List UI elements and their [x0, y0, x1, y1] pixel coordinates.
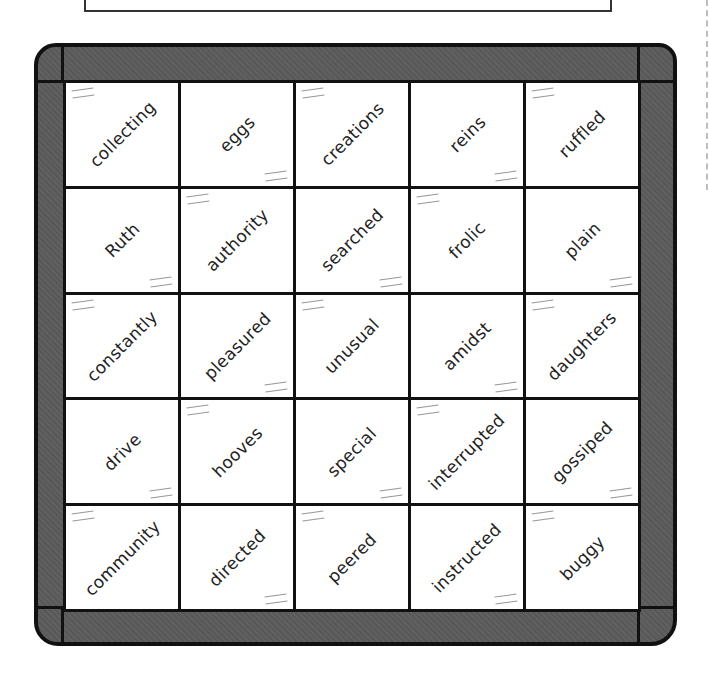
word: authority: [202, 205, 273, 276]
stitch-mark: [495, 382, 518, 393]
stitch-mark: [532, 88, 555, 99]
quilt-frame: collecting eggs creations reins ruffled …: [34, 43, 677, 646]
word: community: [80, 516, 164, 600]
quilt-square[interactable]: directed: [181, 506, 293, 609]
quilt-square[interactable]: pleasured: [181, 295, 293, 398]
stitch-mark: [380, 276, 403, 287]
word: hooves: [208, 423, 267, 482]
quilt-square[interactable]: authority: [181, 189, 293, 292]
word: pleasured: [199, 308, 274, 383]
quilt-square[interactable]: amidst: [411, 295, 523, 398]
stitch-mark: [417, 405, 440, 416]
quilt-square[interactable]: eggs: [181, 83, 293, 186]
corner-seam-bl-h: [38, 606, 64, 609]
corner-seam-tl-v: [61, 47, 64, 83]
word: directed: [204, 525, 269, 590]
stitch-mark: [380, 488, 403, 499]
word: gossiped: [547, 417, 616, 486]
corner-seam-tl-h: [38, 80, 64, 83]
quilt-square[interactable]: instructed: [411, 506, 523, 609]
word: constantly: [83, 306, 162, 385]
quilt-square[interactable]: buggy: [526, 506, 638, 609]
word: drive: [99, 429, 145, 475]
quilt-square[interactable]: hooves: [181, 400, 293, 503]
word: plain: [560, 218, 605, 263]
stitch-mark: [495, 594, 518, 605]
word: frolic: [445, 218, 490, 263]
quilt-square[interactable]: ruffled: [526, 83, 638, 186]
dashed-cut-line: [706, 0, 708, 190]
word: unusual: [320, 314, 383, 377]
stitch-mark: [302, 511, 325, 522]
quilt-square[interactable]: gossiped: [526, 400, 638, 503]
quilt-square[interactable]: plain: [526, 189, 638, 292]
quilt-square[interactable]: searched: [296, 189, 408, 292]
word: creations: [316, 99, 387, 170]
stitch-mark: [610, 276, 633, 287]
quilt-square[interactable]: peered: [296, 506, 408, 609]
word: reins: [445, 112, 490, 157]
stitch-mark: [187, 405, 210, 416]
stitch-mark: [417, 193, 440, 204]
quilt-square[interactable]: Ruth: [66, 189, 178, 292]
corner-seam-br-h: [637, 606, 673, 609]
word: instructed: [428, 519, 505, 596]
quilt-square[interactable]: unusual: [296, 295, 408, 398]
stitch-mark: [265, 594, 288, 605]
stitch-mark: [302, 88, 325, 99]
word: searched: [317, 205, 388, 276]
stitch-mark: [72, 511, 95, 522]
corner-seam-tr-h: [637, 80, 673, 83]
quilt-square[interactable]: special: [296, 400, 408, 503]
word: collecting: [85, 97, 159, 171]
quilt-square[interactable]: frolic: [411, 189, 523, 292]
word: special: [323, 423, 381, 481]
stitch-mark: [532, 511, 555, 522]
quilt-square[interactable]: drive: [66, 400, 178, 503]
quilt-grid: collecting eggs creations reins ruffled …: [63, 80, 641, 612]
word: buggy: [556, 531, 609, 584]
quilt-square[interactable]: creations: [296, 83, 408, 186]
corner-seam-tr-v: [637, 47, 640, 83]
quilt-square[interactable]: reins: [411, 83, 523, 186]
stitch-mark: [265, 382, 288, 393]
stitch-mark: [72, 88, 95, 99]
stitch-mark: [187, 193, 210, 204]
word: daughters: [543, 307, 620, 384]
stitch-mark: [495, 170, 518, 181]
quilt-square[interactable]: constantly: [66, 295, 178, 398]
stitch-mark: [150, 488, 173, 499]
word: interrupted: [425, 410, 509, 494]
quilt-square[interactable]: interrupted: [411, 400, 523, 503]
quilt-square[interactable]: community: [66, 506, 178, 609]
quilt-square[interactable]: daughters: [526, 295, 638, 398]
stitch-mark: [150, 276, 173, 287]
word: ruffled: [554, 107, 609, 162]
stitch-mark: [302, 299, 325, 310]
stitch-mark: [610, 488, 633, 499]
word: amidst: [439, 318, 495, 374]
stitch-mark: [532, 299, 555, 310]
word: peered: [323, 529, 381, 587]
stitch-mark: [265, 170, 288, 181]
word: Ruth: [101, 219, 144, 262]
stitch-mark: [72, 299, 95, 310]
instruction-box: [84, 0, 612, 12]
word: eggs: [215, 112, 259, 156]
quilt-square[interactable]: collecting: [66, 83, 178, 186]
